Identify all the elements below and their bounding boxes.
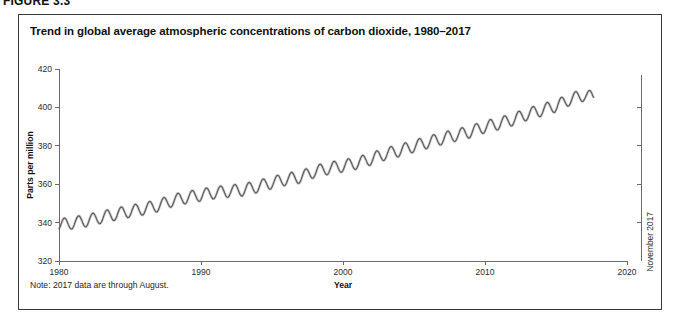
figure-container: FIGURE 3.3 Trend in global average atmos… xyxy=(0,0,680,320)
x-axis-title: Year xyxy=(334,280,353,290)
x-axis-tick-label: 1980 xyxy=(50,267,69,277)
x-axis-tick-label: 2020 xyxy=(618,267,637,277)
plot-area: 32034036038040042019801990200020102020Ye… xyxy=(19,15,663,311)
x-axis-tick-label: 2000 xyxy=(334,267,353,277)
y-axis-tick-label: 360 xyxy=(38,179,52,189)
x-axis-tick-label: 1990 xyxy=(192,267,211,277)
co2-line-chart: 32034036038040042019801990200020102020Ye… xyxy=(19,15,663,311)
y-axis-title: Parts per million xyxy=(25,131,35,198)
x-axis-tick-label: 2010 xyxy=(476,267,495,277)
y-axis-tick-label: 420 xyxy=(38,64,52,74)
y-axis-tick-label: 380 xyxy=(38,141,52,151)
chart-panel: Trend in global average atmospheric conc… xyxy=(18,14,662,310)
chart-note: Note: 2017 data are through August. xyxy=(30,280,169,290)
co2-series-halo xyxy=(59,90,594,229)
november-2017-annotation: November 2017 xyxy=(645,212,655,272)
y-axis-tick-label: 400 xyxy=(38,102,52,112)
figure-number-label: FIGURE 3.3 xyxy=(3,0,70,8)
y-axis-tick-label: 340 xyxy=(38,218,52,228)
y-axis-tick-label: 320 xyxy=(38,256,52,266)
